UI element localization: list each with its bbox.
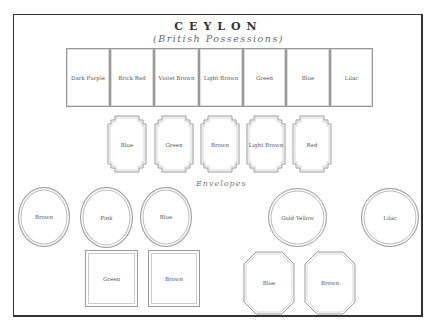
stamp-space-lilac: Lilac (330, 48, 373, 107)
stamp-space-brick-red: Brick Red (110, 48, 154, 107)
stamp-label: Green (103, 276, 120, 282)
cartouche-space-brown: Brown (200, 115, 240, 173)
stamp-space-dark-purple: Dark Purple (66, 48, 110, 107)
stamp-label: Green (256, 75, 273, 81)
oval-space-blue: Blue (140, 187, 192, 247)
stamp-space-green: Green (243, 48, 286, 107)
cartouche-space-blue: Blue (107, 115, 147, 173)
cartouche-space-red: Red (292, 115, 332, 173)
stamp-space-blue: Blue (286, 48, 330, 107)
oval-space-brown: Brown (18, 187, 70, 247)
stamp-label: Light Brown (204, 75, 239, 81)
cartouche-space-light-brown: Light Brown (246, 115, 286, 173)
stamp-label: Lilac (383, 215, 397, 221)
stamp-label: Dark Purple (71, 75, 105, 81)
stamp-label: Brown (165, 276, 183, 282)
stamp-label: Violet Brown (158, 75, 194, 81)
stamp-label: Brown (304, 280, 356, 286)
stamp-label: Pink (100, 215, 112, 221)
stamp-label: Brown (200, 142, 240, 148)
cartouche-space-green: Green (154, 115, 194, 173)
stamp-label: Lilac (345, 75, 359, 81)
envelopes-section-label: Envelopes (196, 179, 247, 188)
page-title: CEYLON (0, 20, 437, 33)
rect-envelope-space-brown: Brown (148, 250, 200, 307)
stamp-label: Green (154, 142, 194, 148)
octagon-space-brown: Brown (304, 251, 356, 315)
stamp-label: Brown (35, 214, 53, 220)
stamp-label: Red (292, 142, 332, 148)
oval-space-lilac: Lilac (361, 188, 419, 247)
octagon-space-blue: Blue (243, 251, 295, 315)
page-subtitle: (British Possessions) (0, 33, 437, 44)
stamp-label: Blue (107, 142, 147, 148)
stamp-label: Blue (243, 280, 295, 286)
stamp-label: Blue (160, 214, 173, 220)
oval-space-gold-yellow: Gold Yellow (268, 188, 327, 247)
stamp-label: Brick Red (118, 75, 146, 81)
stamp-label: Blue (302, 75, 315, 81)
stamp-space-violet-brown: Violet Brown (154, 48, 199, 107)
stamp-label: Gold Yellow (281, 215, 314, 221)
rect-envelope-space-green: Green (85, 250, 138, 307)
stamp-label: Light Brown (246, 142, 286, 148)
stamp-space-light-brown: Light Brown (199, 48, 243, 107)
oval-space-pink: Pink (80, 187, 133, 248)
